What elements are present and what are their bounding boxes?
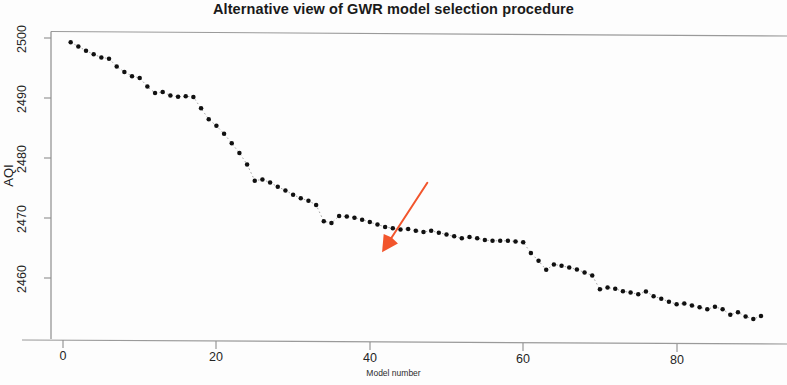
x-tick-label-60: 60: [503, 352, 543, 366]
data-point: [713, 305, 718, 310]
data-point: [268, 180, 273, 185]
data-point: [84, 48, 89, 53]
data-point: [306, 199, 311, 204]
y-tick-label-2460: 2460: [15, 256, 29, 302]
data-point: [636, 292, 641, 297]
data-point: [91, 52, 96, 57]
data-point: [674, 302, 679, 307]
data-point: [682, 301, 687, 306]
data-point: [429, 229, 434, 234]
data-point: [253, 178, 258, 183]
data-point: [444, 232, 449, 237]
y-axis-ticks: [44, 38, 51, 278]
data-point: [229, 141, 234, 146]
x-axis-title: Model number: [0, 368, 787, 378]
data-point: [483, 238, 488, 243]
x-tick-label-0: 0: [43, 349, 83, 363]
data-point: [536, 259, 541, 264]
data-point: [759, 314, 764, 319]
highlight-arrow-head: [382, 234, 398, 252]
data-point: [621, 289, 626, 294]
data-point: [720, 307, 725, 312]
data-point: [360, 217, 365, 222]
data-point: [437, 230, 442, 235]
x-tick-label-80: 80: [657, 353, 697, 367]
data-point: [322, 219, 327, 224]
y-axis-title: AQI: [1, 146, 16, 206]
data-point: [160, 90, 165, 95]
data-point: [199, 106, 204, 111]
data-point: [391, 226, 396, 231]
data-point: [245, 162, 250, 167]
data-point: [99, 55, 104, 60]
data-point: [114, 64, 119, 69]
data-point: [375, 222, 380, 227]
data-point: [137, 76, 142, 81]
data-point: [728, 312, 733, 317]
data-point: [414, 228, 419, 233]
data-point: [751, 317, 756, 322]
data-point: [743, 314, 748, 319]
data-point: [529, 251, 534, 256]
y-tick-label-2480: 2480: [15, 136, 29, 182]
data-point: [559, 263, 564, 268]
data-point: [237, 151, 242, 156]
data-point: [214, 124, 219, 129]
data-point: [544, 268, 549, 273]
data-point: [475, 236, 480, 241]
data-point: [260, 177, 265, 182]
data-point: [145, 84, 150, 89]
y-tick-label-2490: 2490: [15, 76, 29, 122]
data-point: [68, 40, 73, 45]
data-point: [705, 307, 710, 312]
data-point: [498, 239, 503, 244]
annotation-layer: [382, 183, 427, 252]
data-point: [613, 287, 618, 292]
data-point: [736, 310, 741, 315]
y-tick-label-2470: 2470: [15, 196, 29, 242]
data-point: [467, 235, 472, 240]
data-point: [513, 239, 518, 244]
data-point: [690, 303, 695, 308]
data-point: [667, 299, 672, 304]
data-point: [299, 196, 304, 201]
data-point: [168, 93, 173, 98]
data-point: [191, 95, 196, 100]
data-point: [107, 56, 112, 61]
data-point: [206, 117, 211, 122]
data-point: [153, 91, 158, 96]
axis-lines: [22, 32, 787, 345]
y-tick-label-2500: 2500: [15, 16, 29, 62]
data-point: [506, 239, 511, 244]
data-point: [130, 74, 135, 79]
data-point: [567, 265, 572, 270]
series-connector-line: [71, 42, 761, 319]
data-point: [552, 262, 557, 267]
data-point: [76, 44, 81, 49]
data-point: [598, 287, 603, 292]
data-point: [383, 225, 388, 230]
data-point: [176, 95, 181, 100]
data-point: [291, 192, 296, 197]
data-point: [352, 216, 357, 221]
highlight-arrow-shaft: [388, 183, 427, 243]
series-connector-path: [71, 42, 761, 319]
data-point: [590, 273, 595, 278]
data-point: [183, 94, 188, 99]
data-point: [575, 267, 580, 272]
data-point: [452, 234, 457, 239]
data-point: [605, 285, 610, 290]
data-point: [283, 188, 288, 193]
data-point: [345, 214, 350, 219]
data-point: [276, 185, 281, 190]
data-point: [421, 230, 426, 235]
data-point: [582, 270, 587, 275]
data-point: [329, 221, 334, 226]
data-point: [337, 214, 342, 219]
data-point: [314, 203, 319, 208]
data-point: [122, 70, 127, 75]
chart-figure: Alternative view of GWR model selection …: [0, 0, 787, 385]
data-point: [490, 239, 495, 244]
data-point: [659, 296, 664, 301]
data-point: [644, 289, 649, 294]
